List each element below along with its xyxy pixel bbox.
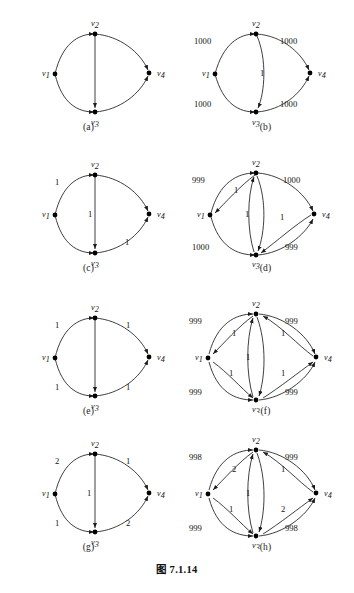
vertex-label-v1: v1 xyxy=(42,210,50,221)
edge-v3-v4 xyxy=(95,360,148,396)
node-v1 xyxy=(213,72,218,77)
vertex-label-v2: v2 xyxy=(91,19,99,30)
vertex-label-v4: v4 xyxy=(318,69,326,80)
weight-v3-v4: 998 xyxy=(285,523,298,533)
weight-v3-v4-inner: 1 xyxy=(281,368,285,378)
weight-v1-v2: 2 xyxy=(55,456,59,466)
weight-v1-v3: 1000 xyxy=(192,242,209,252)
panel-b: v1 v2 v3 v4 1000 1000 1000 1000 1 (b) xyxy=(177,4,354,147)
weight-v1-v2: 1 xyxy=(55,320,59,330)
panel-e: v1 v2 v3 v4 1 1 1 1 (e) xyxy=(0,288,177,431)
weight-v1-v3-inner: 1 xyxy=(229,368,233,378)
vertex-label-v4: v4 xyxy=(157,69,165,80)
weight-v2-v4: 1000 xyxy=(283,175,300,185)
node-v1 xyxy=(53,356,58,361)
node-v4 xyxy=(314,491,319,496)
weight-v2-v3: 1 xyxy=(260,68,264,78)
weight-v2-v4: 1 xyxy=(126,456,130,466)
weight-v1-v3: 999 xyxy=(189,523,202,533)
weight-v3-v4: 1 xyxy=(125,237,129,247)
edge-v3-v4 xyxy=(95,76,148,112)
panel-f: v1 v2 v3 v4 999 999 999 999 1 1 1 1 1 (f… xyxy=(177,288,354,431)
node-v3 xyxy=(254,253,259,258)
panel-d: v1 v2 v3 v4 999 1000 1000 999 1 1 1 (d) xyxy=(177,145,354,288)
node-v2 xyxy=(93,452,98,457)
vertex-label-v2: v2 xyxy=(91,439,99,450)
edge-v1-v2 xyxy=(215,34,255,74)
vertex-label-v2: v2 xyxy=(252,299,260,310)
edge-v1-v3 xyxy=(55,74,94,112)
weight-v1-v3: 999 xyxy=(189,387,202,397)
vertex-label-v1: v1 xyxy=(195,489,203,500)
node-v2 xyxy=(254,448,259,453)
node-v1 xyxy=(208,213,213,218)
weight-v3-v4: 999 xyxy=(285,387,298,397)
node-v4 xyxy=(308,71,313,76)
node-v1 xyxy=(53,213,58,218)
weight-v2-v3: 1 xyxy=(88,209,92,219)
vertex-label-v2: v2 xyxy=(252,19,260,30)
weight-v2-v3: 1 xyxy=(246,488,250,498)
edge-v1-v2 xyxy=(211,173,255,213)
node-v4 xyxy=(147,212,152,217)
panel-h: v1 v2 v3 v4 998 999 999 998 2 1 1 2 1 (h… xyxy=(177,424,354,567)
weight-v2-v1: 2 xyxy=(232,464,236,474)
weight-v3-v4: 1 xyxy=(126,382,130,392)
subcaption-a: (a) xyxy=(0,122,177,132)
node-v3 xyxy=(93,530,98,535)
weight-v1-v2: 999 xyxy=(192,175,205,185)
edge-v1-v3 xyxy=(55,358,94,396)
node-v2 xyxy=(93,316,98,321)
edge-v3-v2 xyxy=(249,177,254,252)
node-v3 xyxy=(254,398,259,403)
vertex-label-v2: v2 xyxy=(252,158,260,169)
weight-v1-v2: 1000 xyxy=(194,36,211,46)
vertex-label-v4: v4 xyxy=(324,489,332,500)
weight-v2-v1: 1 xyxy=(232,328,236,338)
node-v4 xyxy=(147,71,152,76)
weight-v1-v3: 1 xyxy=(55,382,59,392)
node-v2 xyxy=(93,173,98,178)
edge-v1-v3 xyxy=(55,494,94,532)
weight-v1-v3-inner: 1 xyxy=(229,504,233,514)
weight-v4-v3: 1 xyxy=(280,212,284,222)
node-v4 xyxy=(314,355,319,360)
edge-v1-v3 xyxy=(215,74,255,112)
edge-v2-v3 xyxy=(257,453,264,532)
weight-v1-v2: 999 xyxy=(189,316,202,326)
node-v3 xyxy=(254,534,259,539)
weight-v2-v4: 1 xyxy=(126,320,130,330)
node-v4 xyxy=(312,212,317,217)
edge-v1-v2 xyxy=(209,450,253,490)
edge-v2-v4 xyxy=(95,34,148,70)
vertex-label-v1: v1 xyxy=(42,69,50,80)
weight-v2-v4: 999 xyxy=(285,316,298,326)
weight-v1-v3: 1 xyxy=(55,518,59,528)
subcaption-e: (e) xyxy=(0,406,177,416)
node-v4 xyxy=(147,491,152,496)
weight-v3-v4: 1000 xyxy=(280,99,297,109)
edge-v1-v2 xyxy=(55,318,94,358)
edge-v2-v3 xyxy=(257,176,264,251)
subcaption-d: (d) xyxy=(177,263,354,273)
edge-v1-v3 xyxy=(55,215,94,253)
figure-caption: 图 7.1.14 xyxy=(0,561,354,576)
node-v2 xyxy=(254,32,259,37)
vertex-label-v4: v4 xyxy=(157,210,165,221)
edge-v2-v4 xyxy=(95,454,148,490)
weight-v2-v4: 999 xyxy=(285,452,298,462)
edge-v1-v2 xyxy=(209,314,253,354)
node-v3 xyxy=(93,251,98,256)
node-v1 xyxy=(206,356,211,361)
node-v1 xyxy=(53,492,58,497)
subcaption-b: (b) xyxy=(177,122,354,132)
edge-v1-v2 xyxy=(55,34,94,74)
vertex-label-v4: v4 xyxy=(157,489,165,500)
weight-v3-v4: 999 xyxy=(285,242,298,252)
weight-v1-v2: 1 xyxy=(55,177,59,187)
subcaption-g: (g) xyxy=(0,542,177,552)
panel-g: v1 v2 v3 v4 2 1 1 2 1 (g) xyxy=(0,424,177,567)
node-v4 xyxy=(147,355,152,360)
node-v2 xyxy=(93,32,98,37)
node-v2 xyxy=(254,171,259,176)
